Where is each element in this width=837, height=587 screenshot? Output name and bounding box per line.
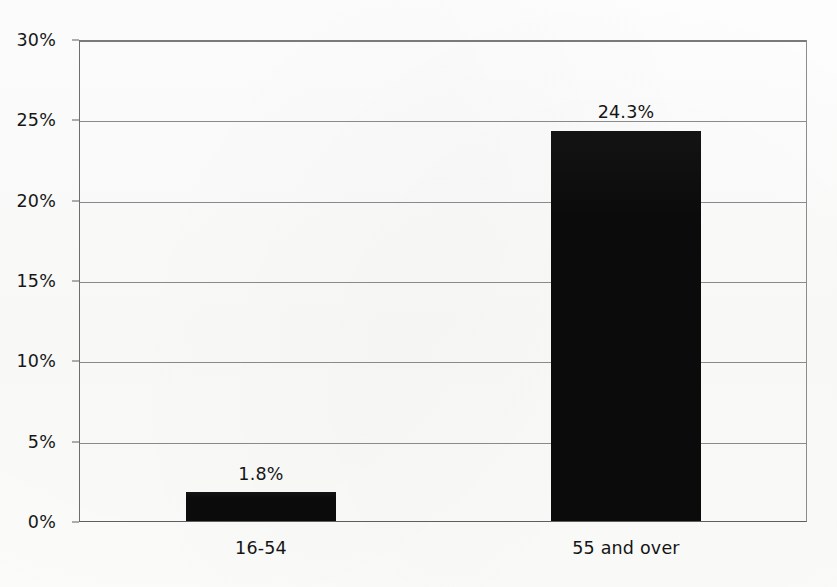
y-axis-tick-mark-20 <box>72 200 79 201</box>
bar-value-label-55-and-over: 24.3% <box>598 102 655 122</box>
y-axis-tick-mark-0 <box>72 522 79 523</box>
bar-chart: 30% 25% 20% 15% 10% 5% 0% 1.8% 24.3% 16-… <box>0 0 837 587</box>
y-axis-tick-mark-5 <box>72 441 79 442</box>
bar-16-54 <box>186 492 336 521</box>
plot-area <box>79 40 807 522</box>
y-axis-tick-label-15: 15% <box>0 271 56 291</box>
y-axis-tick-mark-25 <box>72 120 79 121</box>
y-axis-tick-label-20: 20% <box>0 191 56 211</box>
y-axis-tick-mark-30 <box>72 40 79 41</box>
y-axis-tick-label-10: 10% <box>0 351 56 371</box>
y-axis-tick-label-5: 5% <box>0 432 56 452</box>
y-axis-tick-label-25: 25% <box>0 110 56 130</box>
bar-55-and-over <box>551 131 701 521</box>
bar-sheen <box>186 492 336 521</box>
y-axis-tick-label-30: 30% <box>0 30 56 50</box>
y-axis-tick-mark-15 <box>72 281 79 282</box>
gridline-30 <box>80 41 806 42</box>
bar-sheen <box>551 131 701 521</box>
bar-value-label-16-54: 1.8% <box>238 464 283 484</box>
y-axis-tick-label-0: 0% <box>0 512 56 532</box>
y-axis-tick-mark-10 <box>72 361 79 362</box>
x-axis-category-label-16-54: 16-54 <box>235 538 287 558</box>
x-axis-category-label-55-and-over: 55 and over <box>572 538 680 558</box>
gridline-25 <box>80 121 806 122</box>
